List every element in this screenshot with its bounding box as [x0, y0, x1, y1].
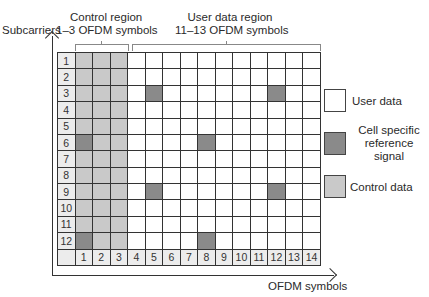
user-data-cell	[181, 86, 199, 102]
user-data-cell	[303, 86, 321, 102]
user-data-cell	[128, 233, 146, 249]
user-data-cell	[216, 69, 234, 85]
user-data-cell	[128, 86, 146, 102]
row-label: 7	[58, 151, 76, 167]
legend-label-reference-signal-1: Cell specific	[350, 124, 428, 137]
user-data-cell	[286, 217, 304, 233]
user-data-cell	[286, 168, 304, 184]
user-data-cell	[216, 184, 234, 200]
user-data-cell	[268, 102, 286, 118]
column-label: 14	[303, 250, 321, 266]
user-data-cell	[286, 69, 304, 85]
row-label: 2	[58, 69, 76, 85]
control-data-cell	[76, 184, 94, 200]
user-data-cell	[146, 119, 164, 135]
user-data-cell	[233, 53, 251, 69]
user-data-cell	[128, 151, 146, 167]
user-data-cell	[216, 233, 234, 249]
user-data-cell	[303, 233, 321, 249]
user-data-cell	[163, 119, 181, 135]
user-data-cell	[251, 119, 269, 135]
control-data-cell	[111, 217, 129, 233]
control-data-cell	[76, 86, 94, 102]
user-data-cell	[198, 200, 216, 216]
control-region-brace	[75, 44, 129, 51]
legend-swatch-reference-signal	[324, 132, 346, 155]
column-label: 2	[93, 250, 111, 266]
user-data-cell	[233, 119, 251, 135]
reference-signal-cell	[198, 233, 216, 249]
user-data-cell	[128, 184, 146, 200]
row-label: 11	[58, 217, 76, 233]
user-data-cell	[198, 184, 216, 200]
control-data-cell	[76, 200, 94, 216]
user-data-cell	[146, 200, 164, 216]
legend-label-reference-signal-3: signal	[350, 150, 428, 163]
user-data-cell	[251, 168, 269, 184]
user-data-cell	[216, 119, 234, 135]
control-data-cell	[93, 86, 111, 102]
user-data-cell	[198, 151, 216, 167]
user-data-cell	[128, 69, 146, 85]
user-data-cell	[268, 217, 286, 233]
user-data-cell	[181, 69, 199, 85]
corner-cell	[58, 250, 76, 266]
control-data-cell	[76, 53, 94, 69]
control-data-cell	[111, 69, 129, 85]
user-data-cell	[181, 233, 199, 249]
user-data-cell	[181, 53, 199, 69]
user-data-cell	[286, 233, 304, 249]
control-data-cell	[76, 151, 94, 167]
control-data-cell	[93, 119, 111, 135]
user-data-cell	[251, 217, 269, 233]
user-data-cell	[303, 102, 321, 118]
user-data-cell	[268, 233, 286, 249]
legend-swatch-user-data	[324, 89, 346, 112]
user-data-cell	[233, 151, 251, 167]
user-data-cell	[303, 69, 321, 85]
user-data-cell	[146, 168, 164, 184]
user-data-cell	[216, 151, 234, 167]
user-data-cell	[303, 168, 321, 184]
user-data-cell	[251, 69, 269, 85]
user-data-cell	[216, 135, 234, 151]
user-data-cell	[233, 168, 251, 184]
user-data-cell	[146, 69, 164, 85]
column-label: 13	[286, 250, 304, 266]
user-data-cell	[268, 151, 286, 167]
user-data-cell	[163, 86, 181, 102]
user-region-brace	[132, 44, 321, 51]
control-data-cell	[93, 69, 111, 85]
user-data-cell	[163, 69, 181, 85]
row-label: 12	[58, 233, 76, 249]
control-data-cell	[93, 151, 111, 167]
control-data-cell	[111, 135, 129, 151]
column-label: 12	[268, 250, 286, 266]
control-data-cell	[111, 233, 129, 249]
user-data-cell	[286, 102, 304, 118]
user-data-cell	[303, 217, 321, 233]
user-data-cell	[251, 233, 269, 249]
user-data-cell	[128, 217, 146, 233]
user-data-cell	[181, 168, 199, 184]
user-data-cell	[146, 151, 164, 167]
user-data-cell	[146, 53, 164, 69]
user-data-cell	[146, 217, 164, 233]
control-data-cell	[93, 102, 111, 118]
user-data-cell	[268, 135, 286, 151]
user-data-cell	[181, 102, 199, 118]
y-axis-line	[52, 36, 53, 276]
user-data-cell	[181, 135, 199, 151]
control-data-cell	[111, 102, 129, 118]
user-data-cell	[286, 135, 304, 151]
user-data-cell	[233, 86, 251, 102]
user-data-cell	[198, 53, 216, 69]
user-data-cell	[303, 119, 321, 135]
user-data-cell	[233, 135, 251, 151]
row-label: 10	[58, 200, 76, 216]
control-data-cell	[111, 200, 129, 216]
user-data-cell	[216, 168, 234, 184]
x-axis-line	[52, 275, 334, 276]
user-data-cell	[128, 53, 146, 69]
user-data-cell	[286, 119, 304, 135]
